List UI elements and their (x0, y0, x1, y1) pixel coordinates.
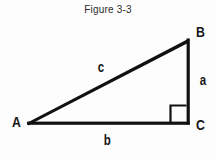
figure-container: Figure 3-3 A B C a b c (0, 0, 216, 161)
vertical-side-a (187, 39, 190, 125)
vertex-label-b: B (196, 24, 205, 39)
side-label-c: c (98, 60, 104, 74)
hypotenuse-side-c (28, 38, 189, 125)
side-label-b: b (104, 133, 111, 147)
right-angle-marker-icon (170, 105, 187, 123)
vertex-label-a: A (12, 114, 21, 129)
side-label-a: a (200, 73, 206, 87)
base-side-b (27, 122, 190, 125)
vertex-label-c: C (196, 117, 205, 132)
